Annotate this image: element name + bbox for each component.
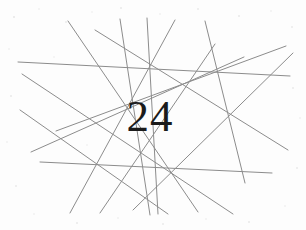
distortion-lines	[0, 0, 306, 230]
distortion-line-10	[120, 19, 150, 215]
captcha-image: 24	[0, 0, 306, 230]
distortion-line-13	[56, 46, 286, 131]
distortion-line-3	[22, 74, 233, 214]
distortion-line-12	[133, 53, 293, 210]
distortion-line-8	[68, 21, 198, 212]
distortion-line-1	[18, 62, 290, 76]
distortion-line-5	[31, 57, 244, 152]
distortion-line-11	[147, 18, 158, 214]
